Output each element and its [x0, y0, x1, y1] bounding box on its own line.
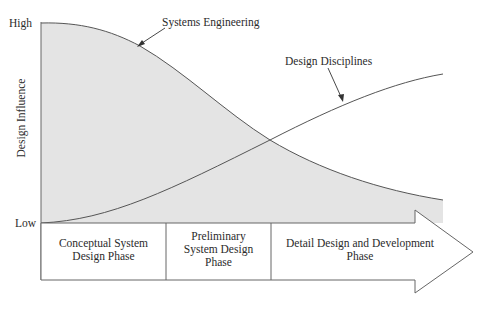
- phase-preliminary: Preliminary System Design Phase: [166, 230, 271, 269]
- systems-engineering-arrowhead-icon: [137, 40, 145, 47]
- systems-engineering-shaded-area: [41, 23, 443, 223]
- design-influence-diagram: High Low Design Influence Systems Engine…: [0, 0, 488, 311]
- phase-detail-line2: Phase: [275, 250, 445, 263]
- y-axis-high-label: High: [9, 17, 32, 30]
- phase-conceptual-line1: Conceptual System: [41, 237, 166, 250]
- design-disciplines-label: Design Disciplines: [285, 55, 372, 68]
- phase-detail-line1: Detail Design and Development: [275, 237, 445, 250]
- phase-preliminary-line1: Preliminary: [166, 230, 271, 243]
- phase-conceptual-line2: Design Phase: [41, 250, 166, 263]
- systems-engineering-label: Systems Engineering: [162, 16, 259, 29]
- phase-preliminary-line3: Phase: [166, 256, 271, 269]
- phase-preliminary-line2: System Design: [166, 243, 271, 256]
- phase-detail-design: Detail Design and Development Phase: [275, 237, 445, 263]
- design-disciplines-pointer: [328, 68, 342, 99]
- phase-conceptual: Conceptual System Design Phase: [41, 237, 166, 263]
- design-disciplines-arrowhead-icon: [338, 94, 344, 102]
- y-axis-low-label: Low: [15, 217, 36, 230]
- y-axis-title: Design Influence: [15, 63, 27, 173]
